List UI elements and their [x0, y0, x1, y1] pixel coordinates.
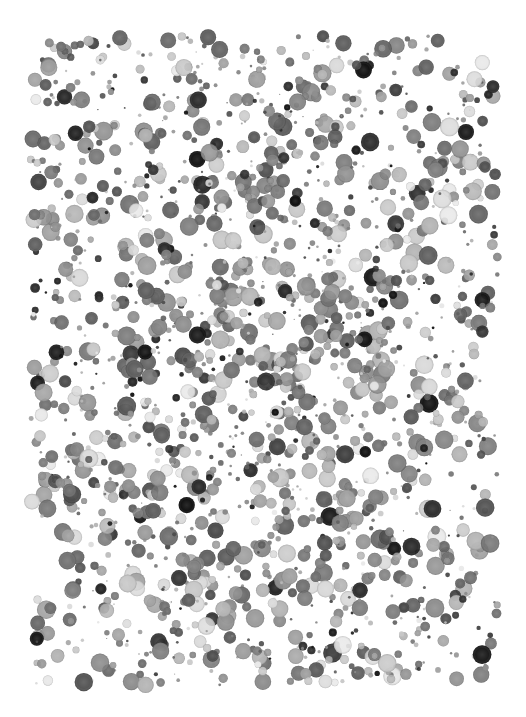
dot: [477, 434, 480, 437]
dot: [214, 83, 218, 87]
dot-rim-shading: [268, 471, 279, 482]
dot-rim-shading: [28, 237, 42, 251]
dot-rim-shading: [271, 247, 277, 253]
dot: [244, 464, 249, 469]
dot: [410, 275, 414, 279]
dot-rim-shading: [112, 187, 122, 197]
dot-rim-shading: [249, 432, 265, 448]
dot-rim-shading: [366, 286, 373, 293]
dot: [299, 488, 301, 490]
dot-rim-shading: [372, 297, 378, 303]
dot: [161, 315, 167, 321]
dot-rim-shading: [205, 590, 215, 600]
dot-rim-shading: [438, 541, 449, 552]
dot: [147, 442, 151, 446]
dot-rim-shading: [397, 108, 408, 119]
dot: [269, 657, 271, 659]
dot-rim-shading: [304, 325, 314, 335]
dot-rim-shading: [297, 591, 313, 607]
dot-rim-shading: [176, 297, 186, 307]
dot-rim-shading: [419, 59, 434, 74]
dot-rim-shading: [360, 446, 371, 457]
dot: [405, 36, 410, 41]
dot-rim-shading: [330, 140, 338, 148]
dot-rim-shading: [380, 238, 394, 252]
dot-rim-shading: [203, 644, 211, 652]
dot: [375, 197, 379, 201]
dot: [286, 264, 288, 266]
dot-rim-shading: [361, 301, 369, 309]
dot-rim-shading: [206, 357, 213, 364]
dot-rim-shading: [138, 191, 149, 202]
dot-rim-shading: [72, 386, 83, 397]
dot: [326, 39, 330, 43]
dot: [176, 641, 179, 644]
dot: [285, 483, 289, 487]
dot-rim-shading: [83, 36, 93, 46]
dot-rim-shading: [366, 504, 374, 512]
dot: [445, 178, 449, 182]
dot-rim-shading: [123, 673, 140, 690]
dot: [202, 362, 206, 366]
dot: [130, 393, 134, 397]
dot: [250, 164, 253, 167]
dot: [317, 650, 320, 653]
dot-rim-shading: [476, 325, 488, 337]
dot-rim-shading: [250, 483, 262, 495]
dot-rim-shading: [277, 46, 286, 55]
dot: [90, 386, 94, 390]
dot-rim-shading: [392, 433, 400, 441]
dot: [296, 485, 298, 487]
dot: [88, 147, 91, 150]
dot-rim-shading: [49, 134, 61, 146]
dot: [183, 160, 187, 164]
dot-rim-shading: [433, 190, 452, 209]
dot-rim-shading: [51, 649, 65, 663]
dot: [376, 353, 382, 359]
dot: [293, 438, 298, 443]
dot-rim-shading: [393, 552, 402, 561]
dot: [448, 471, 454, 477]
dot-rim-shading: [406, 182, 415, 191]
dot-rim-shading: [361, 133, 379, 151]
dot: [340, 362, 344, 366]
dot: [338, 245, 341, 248]
dot: [392, 71, 397, 76]
dot-rim-shading: [150, 471, 166, 487]
dot: [245, 398, 248, 401]
dot-rim-shading: [330, 349, 339, 358]
dot-rim-shading: [227, 171, 236, 180]
dot: [203, 243, 207, 247]
dot-rim-shading: [344, 205, 355, 216]
dot: [186, 36, 189, 39]
dot-rim-shading: [214, 190, 230, 206]
dot: [175, 200, 178, 203]
dot: [478, 379, 481, 382]
dot-rim-shading: [108, 460, 123, 475]
dot-rim-shading: [373, 266, 379, 272]
dot: [381, 308, 384, 311]
dot-rim-shading: [175, 316, 192, 333]
dot: [393, 495, 399, 501]
dot: [88, 413, 91, 416]
dot-rim-shading: [30, 283, 40, 293]
dot-rim-shading: [112, 330, 119, 337]
dot-rim-shading: [141, 76, 148, 83]
dot: [238, 505, 242, 509]
dot-rim-shading: [240, 44, 250, 54]
dot-rim-shading: [206, 215, 222, 231]
dot-rim-shading: [254, 346, 271, 363]
dot: [392, 418, 396, 422]
dot-rim-shading: [325, 656, 332, 663]
dot: [380, 83, 386, 89]
dot: [254, 364, 255, 365]
dot-rim-shading: [102, 435, 108, 441]
dot-rim-shading: [266, 207, 279, 220]
dot-rim-shading: [485, 184, 501, 200]
dot: [189, 261, 192, 264]
dot: [259, 365, 264, 370]
dot: [315, 121, 319, 125]
dot: [407, 394, 411, 398]
dot-rim-shading: [329, 58, 344, 73]
dot-rim-shading: [428, 162, 444, 178]
